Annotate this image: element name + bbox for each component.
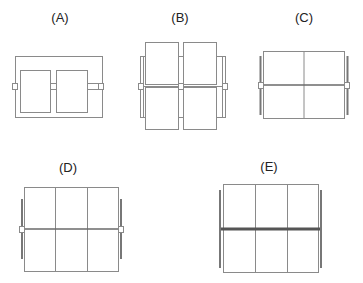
diagram-a — [13, 57, 104, 118]
diagram-c — [259, 51, 350, 119]
diagram-e — [220, 184, 322, 273]
diagram-b — [139, 43, 228, 130]
diagram-canvas — [0, 0, 363, 283]
diagram-d — [20, 187, 124, 272]
